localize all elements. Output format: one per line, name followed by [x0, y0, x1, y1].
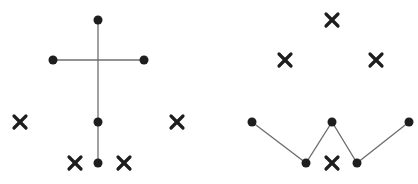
diagram-canvas [0, 0, 418, 184]
left-node-middle [94, 118, 103, 127]
right-x-mark-2 [370, 54, 382, 66]
left-node-bar-right [140, 56, 149, 65]
left-x-mark-3 [118, 157, 130, 169]
left-diagram-cross-tree [14, 16, 183, 170]
right-node-n5 [405, 118, 414, 127]
right-node-n4 [353, 159, 362, 168]
left-x-mark-1 [171, 116, 183, 128]
right-diagram-zigzag-path [248, 14, 414, 169]
right-zigzag-edge [252, 122, 409, 163]
left-x-mark-0 [14, 116, 26, 128]
right-x-mark-1 [279, 54, 291, 66]
right-x-mark-3 [326, 157, 338, 169]
right-x-mark-0 [326, 14, 338, 26]
right-node-n3 [328, 118, 337, 127]
right-node-n1 [248, 118, 257, 127]
left-x-mark-2 [69, 157, 81, 169]
left-node-bar-left [49, 56, 58, 65]
right-node-n2 [302, 159, 311, 168]
left-node-top [94, 16, 103, 25]
left-node-bottom [94, 159, 103, 168]
